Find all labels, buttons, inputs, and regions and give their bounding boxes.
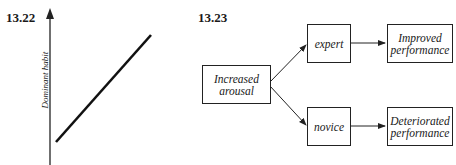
figure-number-right: 13.23 [198, 10, 227, 26]
box-improved-performance: Improved performance [387, 24, 453, 63]
box-novice: novice [307, 107, 351, 146]
box-improved-line2: performance [391, 44, 450, 56]
box-deteriorated-line1: Deteriorated [390, 115, 449, 127]
box-increased-arousal-line2: arousal [219, 85, 254, 97]
y-axis-label: Dominant habit [40, 45, 50, 115]
box-deteriorated-performance: Deteriorated performance [387, 107, 453, 146]
figure-number-left: 13.22 [6, 10, 35, 26]
box-improved-line1: Improved [398, 32, 442, 44]
box-deteriorated-line2: performance [391, 127, 450, 139]
box-expert: expert [307, 24, 351, 63]
arrow-to-novice [270, 86, 306, 125]
y-axis-arrow-icon [46, 8, 54, 19]
dominant-habit-line [56, 35, 151, 142]
box-increased-arousal: Increased arousal [202, 65, 271, 104]
box-increased-arousal-line1: Increased [214, 73, 259, 85]
arrow-to-expert [270, 45, 306, 82]
